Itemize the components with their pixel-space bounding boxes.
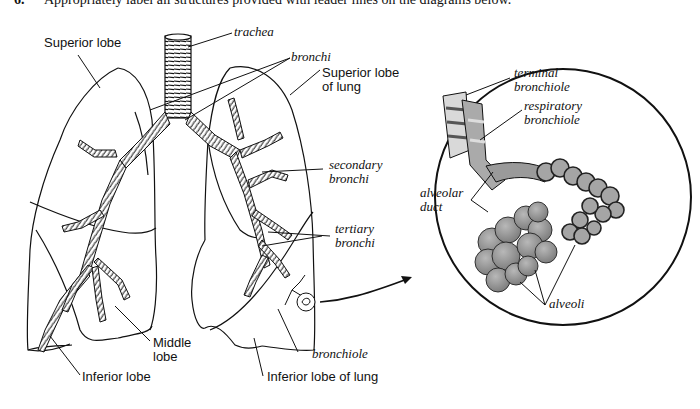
label-line: bronchi — [335, 236, 375, 250]
label-line: lobe — [153, 350, 191, 364]
label-tertiary-bronchi: tertiary bronchi — [335, 222, 375, 251]
label-line: Middle — [153, 336, 191, 350]
label-bronchiole: bronchiole — [312, 347, 368, 361]
label-line: terminal — [514, 66, 570, 80]
label-line: alveolar — [420, 186, 463, 200]
label-line: tertiary — [335, 222, 375, 236]
bronchial-tree — [38, 98, 292, 352]
label-line: bronchiole — [524, 113, 582, 127]
label-superior-lobe-of-lung: Superior lobe of lung — [322, 66, 399, 95]
label-superior-lobe: Superior lobe — [44, 36, 121, 50]
label-line: Superior lobe — [322, 66, 399, 80]
label-bronchi: bronchi — [291, 50, 331, 64]
label-line: bronchiole — [514, 80, 570, 94]
label-line: of lung — [322, 80, 399, 94]
trachea-shape — [165, 34, 191, 118]
label-alveolar-duct: alveolar duct — [420, 186, 463, 215]
bronchiole-detail — [285, 275, 315, 311]
diagram-page: 6.Appropriately label all structures pro… — [0, 0, 700, 409]
label-trachea: trachea — [234, 25, 274, 39]
label-secondary-bronchi: secondary bronchi — [329, 158, 382, 187]
label-line: duct — [420, 200, 463, 214]
label-respiratory-bronchiole: respiratory bronchiole — [524, 99, 582, 128]
label-middle-lobe: Middle lobe — [153, 336, 191, 365]
label-line: respiratory — [524, 99, 582, 113]
label-terminal-bronchiole: terminal bronchiole — [514, 66, 570, 95]
label-line: secondary — [329, 158, 382, 172]
label-alveoli: alveoli — [549, 297, 584, 311]
arrow-to-inset — [320, 278, 410, 302]
left-lung-outline — [27, 68, 156, 351]
label-inferior-lobe-of-lung: Inferior lobe of lung — [267, 370, 378, 384]
label-inferior-lobe: Inferior lobe — [82, 370, 151, 384]
label-line: bronchi — [329, 172, 382, 186]
